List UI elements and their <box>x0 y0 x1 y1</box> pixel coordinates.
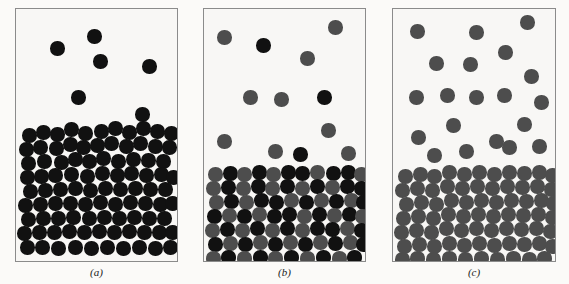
gray-particle-bed <box>206 181 221 196</box>
gray-particle-bed <box>265 223 280 238</box>
gray-particle-bed <box>530 179 545 194</box>
gray-particle-bed <box>487 238 502 253</box>
dark-particle-bed <box>110 168 125 183</box>
gray-particle-bed <box>425 183 440 198</box>
gray-particle-bed <box>295 223 310 238</box>
dark-particle-bed <box>98 181 113 196</box>
gray-particle-bed <box>424 225 439 240</box>
gray-particle-bed <box>440 179 455 194</box>
gray-particle-bed <box>442 236 457 251</box>
gray-particle-dispersed <box>440 88 455 103</box>
dark-particle-dispersed <box>135 107 150 122</box>
dark-particle-bed <box>280 179 295 194</box>
dark-particle-bed <box>82 154 97 169</box>
dark-particle-bed <box>124 166 139 181</box>
gray-particle-bed <box>500 179 515 194</box>
dark-particle-bed <box>150 124 165 139</box>
dark-particle-bed <box>340 179 355 194</box>
dark-particle-bed <box>295 166 310 181</box>
gray-particle-bed <box>410 181 425 196</box>
dark-particle-bed <box>299 195 314 210</box>
dark-particle-bed <box>116 241 131 256</box>
dark-particle-bed <box>111 154 126 169</box>
gray-particle-bed <box>252 207 267 222</box>
gray-particle-bed <box>469 221 484 236</box>
dark-particle-bed <box>36 125 51 140</box>
gray-particle-bed <box>340 221 355 236</box>
gray-particle-dispersed <box>517 117 532 132</box>
dark-particle-bed <box>207 209 222 224</box>
gray-particle-dispersed <box>427 148 442 163</box>
gray-particle-bed <box>253 235 268 250</box>
gray-particle-dispersed <box>532 139 547 154</box>
dark-particle-bed <box>221 250 236 262</box>
panel-a <box>15 8 178 262</box>
gray-particle-bed <box>501 207 516 222</box>
gray-particle-bed <box>414 195 429 210</box>
gray-particle-bed <box>396 211 411 226</box>
dark-particle-bed <box>77 225 92 240</box>
gray-particle-bed <box>545 210 556 225</box>
dark-particle-bed <box>137 225 152 240</box>
gray-particle-bed <box>410 251 425 262</box>
dark-particle-bed <box>68 152 83 167</box>
gray-particle-bed <box>411 209 426 224</box>
gray-particle-bed <box>395 183 410 198</box>
gray-particle-bed <box>502 236 517 251</box>
dark-particle-bed <box>37 154 52 169</box>
dark-particle-bed <box>64 167 79 182</box>
dark-particle-bed <box>18 198 33 213</box>
dark-particle-bed <box>310 179 325 194</box>
gray-particle-bed <box>427 169 442 184</box>
dark-particle-bed <box>267 209 282 224</box>
gray-particle-bed <box>268 251 283 262</box>
dark-particle-bed <box>356 195 366 210</box>
dark-particle-bed <box>157 211 172 226</box>
dark-particle-bed <box>68 240 83 255</box>
gray-particle-bed <box>516 208 531 223</box>
gray-particle-dispersed <box>217 134 232 149</box>
dark-particle-bed <box>208 237 223 252</box>
gray-particle-bed <box>531 207 546 222</box>
gray-particle-bed <box>515 180 530 195</box>
dark-particle-bed <box>223 166 238 181</box>
dark-particle-bed <box>164 126 178 141</box>
dark-particle-bed <box>251 179 266 194</box>
dark-particle-bed <box>143 182 158 197</box>
gray-particle-dispersed <box>429 56 444 71</box>
gray-particle-bed <box>471 207 486 222</box>
gray-particle-bed <box>399 197 414 212</box>
gray-particle-bed <box>474 193 489 208</box>
dark-particle-bed <box>95 166 110 181</box>
gray-particle-bed <box>409 223 424 238</box>
gray-particle-bed <box>441 207 456 222</box>
dark-particle-bed <box>92 224 107 239</box>
dark-particle-dispersed <box>317 90 332 105</box>
gray-particle-dispersed <box>520 15 535 30</box>
panel-b-caption: (b) <box>203 266 366 278</box>
dark-particle-bed <box>84 241 99 256</box>
gray-particle-dispersed <box>217 30 232 45</box>
dark-particle-bed <box>62 224 77 239</box>
dark-particle-bed <box>112 211 127 226</box>
dark-particle-bed <box>33 197 48 212</box>
gray-particle-dispersed <box>411 130 426 145</box>
gray-particle-bed <box>235 223 250 238</box>
gray-particle-bed <box>487 167 502 182</box>
dark-particle-bed <box>21 156 36 171</box>
gray-particle-bed <box>354 167 366 182</box>
dark-particle-bed <box>280 221 295 236</box>
dark-particle-bed <box>148 241 163 256</box>
gray-particle-bed <box>442 165 457 180</box>
dark-particle-bed <box>68 181 83 196</box>
gray-particle-dispersed <box>469 25 484 40</box>
gray-particle-bed <box>472 165 487 180</box>
dark-particle-bed <box>237 209 252 224</box>
gray-particle-dispersed <box>321 123 336 138</box>
gray-particle-bed <box>412 237 427 252</box>
dark-particle-dispersed <box>142 59 157 74</box>
dark-particle-bed <box>347 250 362 262</box>
dark-particle-bed <box>93 195 108 210</box>
dark-particle-bed <box>123 195 138 210</box>
gray-particle-bed <box>455 181 470 196</box>
